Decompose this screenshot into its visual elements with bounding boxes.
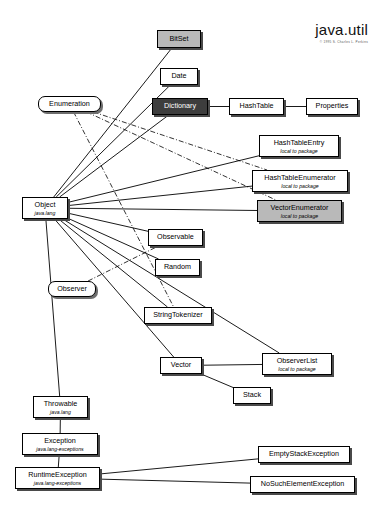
class-node-label: Dictionary	[164, 102, 196, 111]
class-node-label: Stack	[243, 391, 261, 400]
class-node-label: Properties	[316, 102, 349, 111]
class-node-stack[interactable]: Stack	[233, 387, 271, 404]
class-node-label: HashTable	[240, 102, 274, 111]
class-node-sublabel: java.lang	[35, 210, 56, 216]
class-node-label: HashTableEnumerator	[264, 174, 336, 183]
class-node-sublabel: local to package	[278, 366, 316, 372]
class-node-observable[interactable]: Observable	[148, 229, 203, 246]
class-node-label: Throwable	[44, 400, 78, 409]
class-node-properties[interactable]: Properties	[306, 98, 358, 115]
class-node-label: StringTokenizer	[153, 311, 203, 320]
page-title: java.util	[315, 22, 368, 38]
edge-inherits-vector-to-stack	[201, 374, 233, 387]
class-node-htenum[interactable]: HashTableEnumeratorlocal to package	[252, 170, 348, 192]
class-node-observerlist[interactable]: ObserverListlocal to package	[262, 353, 332, 375]
class-node-label: VectorEnumerator	[271, 204, 329, 213]
class-node-label: Random	[164, 263, 191, 272]
class-node-htentry[interactable]: HashTableEntrylocal to package	[259, 135, 339, 157]
class-node-label: HashTableEntry	[274, 139, 325, 148]
class-node-dictionary[interactable]: Dictionary	[152, 98, 208, 115]
edge-inherits-object-to-observable	[68, 213, 148, 231]
edge-inherits-object-to-dictionary	[60, 115, 169, 197]
edge-implements-enumeration-to-htenum	[93, 112, 267, 170]
class-node-throwable[interactable]: Throwablejava.lang	[33, 396, 88, 418]
class-node-label: Exception	[44, 437, 76, 446]
class-node-label: NoSuchElementException	[261, 480, 345, 489]
edge-inherits-object-to-vecenum	[68, 208, 257, 210]
class-node-enumeration[interactable]: Enumeration	[38, 96, 101, 112]
class-node-sublabel: local to package	[281, 213, 319, 219]
class-node-emptystack[interactable]: EmptyStackException	[258, 446, 350, 463]
class-node-label: Date	[171, 72, 186, 81]
edge-implements-enumeration-to-vecenum	[87, 112, 276, 200]
class-node-nosuchelem[interactable]: NoSuchElementException	[250, 476, 355, 493]
class-node-label: BitSet	[169, 35, 188, 44]
class-node-random[interactable]: Random	[155, 259, 200, 276]
copyright-notice: © 1995 S. Charles L. Perkins	[315, 40, 368, 45]
class-node-exception[interactable]: Exceptionjava.lang-exceptions	[22, 433, 98, 455]
class-node-label: ObserverList	[277, 357, 318, 366]
edge-inherits-runtimeexc-to-nosuchelem	[100, 479, 250, 483]
class-node-sublabel: java.lang-exceptions	[36, 446, 83, 452]
class-node-vector[interactable]: Vector	[160, 357, 202, 374]
edge-inherits-runtimeexc-to-emptystack	[100, 459, 258, 474]
class-node-date[interactable]: Date	[160, 68, 198, 85]
class-node-bitset[interactable]: BitSet	[157, 30, 201, 48]
class-node-label: EmptyStackException	[269, 450, 339, 459]
edge-inherits-vector-to-observerlist	[202, 364, 262, 365]
class-node-label: Object	[35, 201, 56, 210]
class-node-sublabel: java.lang	[50, 409, 71, 415]
edge-inherits-exception-to-runtimeexc	[58, 455, 59, 467]
class-node-sublabel: local to package	[280, 148, 318, 154]
edge-inherits-object-to-throwable	[46, 219, 60, 396]
class-node-vecenum[interactable]: VectorEnumeratorlocal to package	[257, 200, 342, 222]
class-node-label: RuntimeException	[28, 471, 86, 480]
class-node-object[interactable]: Objectjava.lang	[22, 197, 68, 219]
class-node-label: Vector	[171, 361, 191, 370]
class-node-hashtable[interactable]: HashTable	[229, 98, 284, 115]
class-node-strtok[interactable]: StringTokenizer	[144, 307, 212, 324]
class-node-sublabel: local to package	[281, 183, 319, 189]
class-node-label: Observable	[157, 233, 194, 242]
diagram-title-block: java.util © 1995 S. Charles L. Perkins	[315, 22, 368, 45]
class-node-sublabel: java.lang-exceptions	[34, 480, 81, 486]
class-node-observer[interactable]: Observer	[48, 281, 96, 297]
edge-inherits-object-to-bitset	[54, 48, 172, 197]
class-node-label: Observer	[57, 285, 87, 294]
class-node-label: Enumeration	[49, 100, 90, 109]
class-diagram-canvas: java.util © 1995 S. Charles L. Perkins B…	[0, 0, 374, 516]
class-node-runtimeexc[interactable]: RuntimeExceptionjava.lang-exceptions	[15, 467, 100, 489]
